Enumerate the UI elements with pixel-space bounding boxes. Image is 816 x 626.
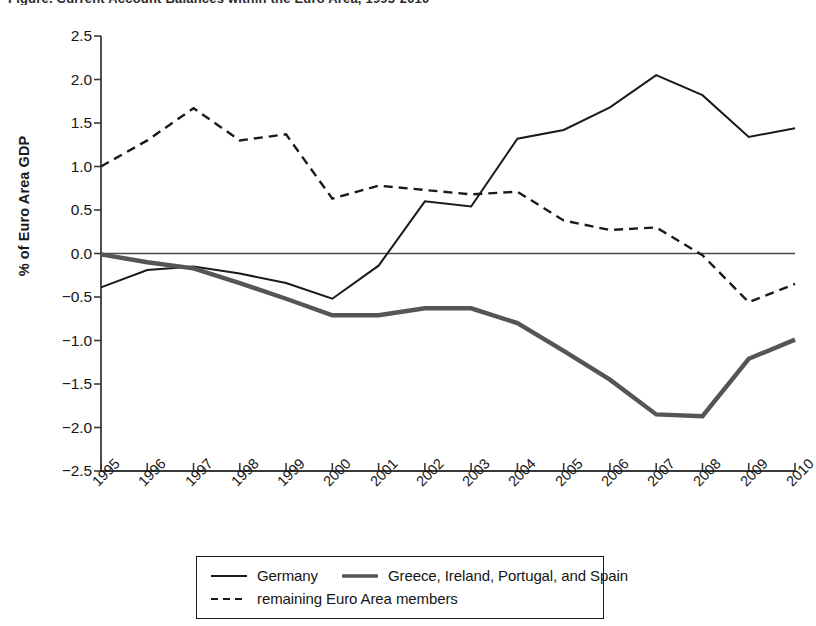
legend-label-germany: Germany	[257, 567, 318, 584]
y-tick-label: 1.0	[46, 158, 92, 176]
y-tick-label: −1.5	[46, 375, 92, 393]
legend-label-remaining: remaining Euro Area members	[257, 590, 458, 607]
y-tick-label: −2.0	[46, 419, 92, 437]
y-tick-label: 2.5	[46, 27, 92, 45]
legend-label-gips: Greece, Ireland, Portugal, and Spain	[388, 567, 628, 584]
y-tick-label: 2.0	[46, 71, 92, 89]
y-tick-label: 1.5	[46, 114, 92, 132]
y-tick-label: −1.0	[46, 332, 92, 350]
legend-row-1: Germany Greece, Ireland, Portugal, and S…	[209, 564, 591, 587]
legend-swatch-solid-thin-icon	[209, 570, 249, 582]
y-tick-label: 0.5	[46, 201, 92, 219]
legend-swatch-solid-thick-icon	[340, 570, 380, 582]
legend-swatch-dashed-icon	[209, 593, 249, 605]
series-line-1	[101, 254, 795, 416]
figure-container: Figure. Current Account Balances within …	[0, 0, 816, 626]
legend-item-germany[interactable]: Germany	[209, 567, 318, 584]
y-tick-label: 0.0	[46, 245, 92, 263]
legend-row-2: remaining Euro Area members	[209, 587, 591, 610]
legend-item-gips[interactable]: Greece, Ireland, Portugal, and Spain	[340, 567, 628, 584]
series-line-0	[101, 75, 795, 299]
x-axis-tick-labels: 1995199619971998199920002001200220032004…	[0, 478, 816, 548]
chart-legend: Germany Greece, Ireland, Portugal, and S…	[196, 556, 604, 619]
y-tick-label: −0.5	[46, 288, 92, 306]
legend-item-remaining[interactable]: remaining Euro Area members	[209, 590, 458, 607]
